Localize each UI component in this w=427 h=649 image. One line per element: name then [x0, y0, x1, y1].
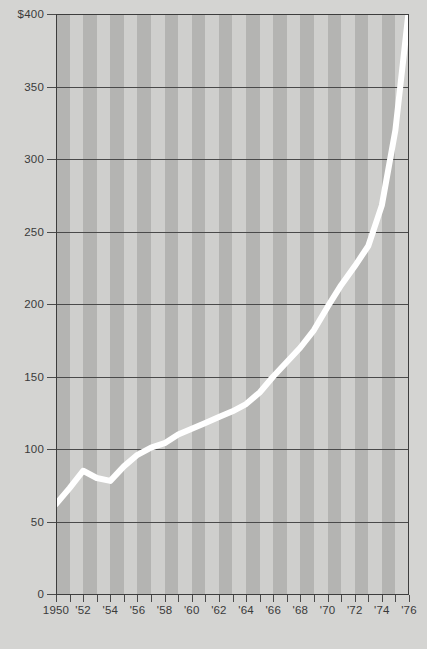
x-axis-tick: [300, 595, 301, 602]
x-axis-tick: [341, 595, 342, 602]
x-axis-tick-label: 1950: [43, 604, 69, 616]
x-axis-tick: [395, 595, 396, 602]
x-axis-tick: [246, 595, 247, 602]
y-axis-tick-label: 200: [24, 298, 44, 310]
y-axis-tick-label: 50: [31, 516, 44, 528]
y-axis-tick: [47, 522, 56, 523]
x-axis-labels: 1950'52'54'56'58'60'62'64'66'68'70'72'74…: [0, 604, 427, 624]
x-axis-tick: [124, 595, 125, 602]
x-axis-tick-label: '72: [347, 604, 363, 616]
chart-figure: 050100150200250300350$400 1950'52'54'56'…: [0, 0, 427, 649]
x-axis-ticks: [0, 595, 427, 603]
x-axis-tick: [97, 595, 98, 602]
x-axis-tick-label: '64: [238, 604, 254, 616]
x-axis-tick: [178, 595, 179, 602]
data-line: [56, 14, 409, 504]
x-axis-tick-label: '66: [265, 604, 281, 616]
x-axis-tick: [83, 595, 84, 602]
plot-frame-left: [56, 14, 57, 595]
x-axis-tick: [165, 595, 166, 602]
y-axis-tick-label: 150: [24, 371, 44, 383]
x-axis-tick-label: '54: [103, 604, 119, 616]
y-axis-tick: [47, 232, 56, 233]
x-axis-tick-label: '70: [320, 604, 336, 616]
x-axis-tick-label: '60: [184, 604, 200, 616]
y-axis-tick: [47, 159, 56, 160]
x-axis-tick: [70, 595, 71, 602]
y-axis-tick-label: 100: [24, 443, 44, 455]
y-axis-tick: [47, 14, 56, 15]
plot-frame-top: [56, 14, 409, 15]
x-axis-tick: [219, 595, 220, 602]
y-axis-tick: [47, 377, 56, 378]
plot-area: [56, 14, 409, 594]
x-axis-tick-label: '62: [211, 604, 227, 616]
x-axis-tick: [287, 595, 288, 602]
y-axis-tick-label: 250: [24, 226, 44, 238]
x-axis-tick: [56, 595, 57, 602]
x-axis-tick: [273, 595, 274, 602]
y-axis-tick-label: 350: [24, 81, 44, 93]
y-axis-tick-label: 300: [24, 153, 44, 165]
x-axis-tick: [328, 595, 329, 602]
x-axis-tick: [368, 595, 369, 602]
y-axis-tick-label: $400: [18, 8, 44, 20]
x-axis-tick: [314, 595, 315, 602]
plot-frame-right: [408, 14, 409, 595]
y-axis-tick: [47, 87, 56, 88]
x-axis-tick: [260, 595, 261, 602]
x-axis-tick: [382, 595, 383, 602]
x-axis-tick-label: '58: [157, 604, 173, 616]
x-axis-tick: [137, 595, 138, 602]
x-axis-tick: [151, 595, 152, 602]
y-axis-tick: [47, 304, 56, 305]
y-axis-tick: [47, 449, 56, 450]
x-axis-tick-label: '68: [293, 604, 309, 616]
x-axis-tick: [233, 595, 234, 602]
data-line-series: [56, 14, 409, 594]
x-axis-tick-label: '74: [374, 604, 390, 616]
x-axis-tick-label: '56: [130, 604, 146, 616]
y-axis-labels: 050100150200250300350$400: [0, 0, 56, 620]
x-axis-tick-label: '52: [75, 604, 91, 616]
x-axis-tick: [205, 595, 206, 602]
x-axis-tick: [355, 595, 356, 602]
x-axis-tick: [192, 595, 193, 602]
x-axis-tick: [409, 595, 410, 602]
x-axis-tick-label: '76: [401, 604, 417, 616]
x-axis-tick: [110, 595, 111, 602]
